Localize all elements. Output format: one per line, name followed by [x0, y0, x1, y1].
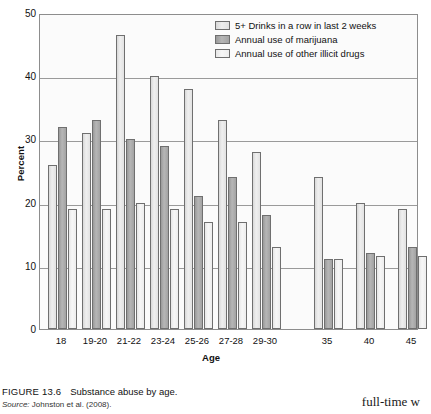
legend-item: Annual use of other illicit drugs	[215, 47, 415, 60]
bar-group	[48, 15, 77, 329]
bar	[228, 177, 237, 329]
bar	[356, 203, 365, 329]
page-bleed-text: full-time w	[362, 394, 420, 410]
bar	[126, 139, 135, 329]
legend-swatch	[215, 35, 230, 44]
bar	[170, 209, 179, 329]
bar	[252, 152, 261, 329]
x-tick-label: 45	[386, 335, 431, 346]
bar-group	[82, 15, 111, 329]
y-tick-label: 30	[4, 135, 36, 145]
bar	[366, 253, 375, 329]
bars-layer	[40, 15, 417, 329]
bar	[418, 256, 427, 329]
bar	[218, 120, 227, 329]
bar	[238, 222, 247, 329]
bar	[58, 127, 67, 329]
legend-swatch	[215, 49, 230, 58]
legend-item: Annual use of marijuana	[215, 33, 415, 46]
source-label: Source:	[2, 400, 30, 409]
x-axis-title: Age	[0, 352, 422, 363]
bar	[324, 259, 333, 329]
bar-group	[184, 15, 213, 329]
chart-region: Percent 01020304050 1819-2021-2223-2425-…	[0, 0, 422, 372]
bar	[204, 222, 213, 329]
bar	[68, 209, 77, 329]
bar	[376, 256, 385, 329]
bar	[184, 89, 193, 329]
caption-line: FIGURE 13.6Substance abuse by age.	[2, 386, 422, 397]
bar	[48, 165, 57, 329]
bar-group	[314, 15, 343, 329]
bar-group	[356, 15, 385, 329]
y-tick-label: 20	[4, 199, 36, 209]
y-tick-label: 0	[4, 325, 36, 335]
bar	[160, 146, 169, 329]
legend-label: Annual use of other illicit drugs	[235, 48, 364, 59]
plot-area	[39, 14, 418, 330]
bar	[82, 133, 91, 329]
bar	[314, 177, 323, 329]
y-tick-label: 40	[4, 72, 36, 82]
bar	[272, 247, 281, 329]
bar-group	[116, 15, 145, 329]
bar	[334, 259, 343, 329]
x-tick-label: 29-30	[240, 335, 290, 346]
bar	[116, 35, 125, 329]
chart-legend: 5+ Drinks in a row in last 2 weeksAnnual…	[215, 19, 415, 61]
bar	[102, 209, 111, 329]
legend-label: Annual use of marijuana	[235, 34, 337, 45]
bar	[408, 247, 417, 329]
bar-group	[150, 15, 179, 329]
bar	[150, 76, 159, 329]
bar	[136, 203, 145, 329]
source-line: Source: Johnston et al. (2008).	[2, 400, 422, 409]
legend-label: 5+ Drinks in a row in last 2 weeks	[235, 20, 376, 31]
bar	[262, 215, 271, 329]
bar	[398, 209, 407, 329]
y-tick-label: 50	[4, 9, 36, 19]
source-text: Johnston et al. (2008).	[32, 400, 112, 409]
bar-group	[398, 15, 427, 329]
legend-swatch	[215, 21, 230, 30]
figure-caption: FIGURE 13.6Substance abuse by age. Sourc…	[2, 386, 422, 409]
bar-group	[252, 15, 281, 329]
y-tick-label: 10	[4, 262, 36, 272]
figure-title: Substance abuse by age.	[70, 386, 177, 397]
bar-group	[218, 15, 247, 329]
legend-item: 5+ Drinks in a row in last 2 weeks	[215, 19, 415, 32]
bar	[194, 196, 203, 329]
bar	[92, 120, 101, 329]
figure-label: FIGURE 13.6	[2, 386, 61, 397]
